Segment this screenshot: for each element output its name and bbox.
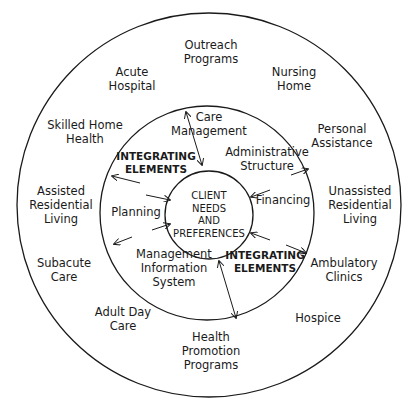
center-line: AND	[173, 215, 245, 228]
service-line: Clinics	[311, 270, 378, 284]
service-line: Nursing	[272, 65, 316, 79]
service-line: Home	[272, 79, 316, 93]
service-line: Unassisted	[328, 184, 391, 198]
element-line: Management	[171, 124, 247, 138]
element-line: Planning	[111, 205, 161, 219]
service-line: Adult Day	[95, 305, 151, 319]
service-line: Care	[37, 270, 91, 284]
element-management-information-system: Management Information System	[136, 247, 212, 289]
element-line: Structure	[225, 159, 309, 173]
service-line: Outreach	[184, 38, 239, 52]
service-subacute-care: Subacute Care	[37, 256, 91, 284]
service-ambulatory-clinics: Ambulatory Clinics	[311, 256, 378, 284]
service-hospice: Hospice	[295, 311, 341, 325]
client-needs-label: CLIENT NEEDS AND PREFERENCES	[173, 190, 245, 240]
element-line: Financing	[256, 193, 311, 207]
service-personal-assistance: Personal Assistance	[311, 122, 372, 150]
element-line: Care	[171, 110, 247, 124]
service-nursing-home: Nursing Home	[272, 65, 316, 93]
service-line: Assistance	[311, 136, 372, 150]
service-line: Living	[29, 212, 92, 226]
service-unassisted-residential-living: Unassisted Residential Living	[328, 184, 391, 226]
element-line: Administrative	[225, 145, 309, 159]
service-outreach-programs: Outreach Programs	[184, 38, 239, 66]
integrating-elements-heading-lower: INTEGRATING ELEMENTS	[225, 249, 305, 275]
service-line: Residential	[328, 198, 391, 212]
service-line: Ambulatory	[311, 256, 378, 270]
service-line: Health	[182, 330, 241, 344]
arrow-right-inner-lower	[251, 233, 270, 240]
element-financing: Financing	[256, 193, 311, 207]
service-line: Personal	[311, 122, 372, 136]
service-line: Acute	[109, 65, 156, 79]
center-line: PREFERENCES	[173, 228, 245, 241]
element-care-management: Care Management	[171, 110, 247, 138]
service-assisted-residential-living: Assisted Residential Living	[29, 184, 92, 226]
heading-line: ELEMENTS	[116, 163, 196, 176]
heading-line: INTEGRATING	[116, 150, 196, 163]
element-line: Management	[136, 247, 212, 261]
arrow-left-outer-lower	[114, 237, 132, 244]
service-line: Residential	[29, 198, 92, 212]
service-line: Subacute	[37, 256, 91, 270]
service-line: Assisted	[29, 184, 92, 198]
heading-line: INTEGRATING	[225, 249, 305, 262]
service-line: Living	[328, 212, 391, 226]
arrow-left-outer-upper	[112, 176, 140, 183]
service-health-promotion-programs: Health Promotion Programs	[182, 330, 241, 372]
element-line: Information	[136, 261, 212, 275]
element-line: System	[136, 275, 212, 289]
arrow-left-inner-upper	[146, 195, 170, 200]
service-line: Hospital	[109, 79, 156, 93]
service-line: Programs	[182, 358, 241, 372]
service-skilled-home-health: Skilled Home Health	[47, 118, 123, 146]
service-line: Promotion	[182, 344, 241, 358]
service-acute-hospital: Acute Hospital	[109, 65, 156, 93]
service-line: Hospice	[295, 311, 341, 325]
integrating-elements-heading-upper: INTEGRATING ELEMENTS	[116, 150, 196, 176]
service-line: Care	[95, 319, 151, 333]
element-administrative-structure: Administrative Structure	[225, 145, 309, 173]
heading-line: ELEMENTS	[225, 262, 305, 275]
service-line: Programs	[184, 52, 239, 66]
service-line: Health	[47, 132, 123, 146]
center-line: NEEDS	[173, 203, 245, 216]
element-planning: Planning	[111, 205, 161, 219]
service-adult-day-care: Adult Day Care	[95, 305, 151, 333]
center-line: CLIENT	[173, 190, 245, 203]
service-line: Skilled Home	[47, 118, 123, 132]
